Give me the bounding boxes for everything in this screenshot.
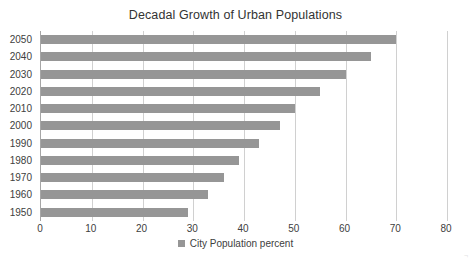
legend-swatch-icon (178, 240, 185, 247)
x-axis-label-60: 60 (339, 223, 350, 234)
corner-mark: ¬ (464, 252, 468, 259)
y-axis-category-labels: 2050204020302020201020001990198019701960… (0, 31, 36, 221)
y-axis-label-2000: 2000 (0, 117, 32, 134)
gridline (447, 31, 448, 221)
y-axis-label-1970: 1970 (0, 169, 32, 186)
bar-row (41, 169, 446, 186)
bar-2010[interactable] (41, 104, 295, 113)
bar-1980[interactable] (41, 156, 239, 165)
bar-2050[interactable] (41, 35, 396, 44)
bar-1960[interactable] (41, 190, 208, 199)
y-axis-label-2030: 2030 (0, 66, 32, 83)
x-axis-label-80: 80 (440, 223, 451, 234)
y-axis-label-1990: 1990 (0, 135, 32, 152)
chart-container: Decadal Growth of Urban Populations 2050… (0, 0, 471, 261)
y-axis-label-1960: 1960 (0, 186, 32, 203)
bar-1970[interactable] (41, 173, 224, 182)
y-axis-label-2050: 2050 (0, 31, 32, 48)
y-axis-label-2040: 2040 (0, 48, 32, 65)
bar-row (41, 83, 446, 100)
bar-row (41, 48, 446, 65)
bar-row (41, 66, 446, 83)
y-axis-label-1980: 1980 (0, 152, 32, 169)
bar-row (41, 186, 446, 203)
y-axis-label-2010: 2010 (0, 100, 32, 117)
y-axis-label-2020: 2020 (0, 83, 32, 100)
x-axis-label-20: 20 (136, 223, 147, 234)
bar-1990[interactable] (41, 139, 259, 148)
x-axis-label-10: 10 (85, 223, 96, 234)
bar-2030[interactable] (41, 70, 346, 79)
bar-row (41, 204, 446, 221)
legend-label: City Population percent (190, 238, 293, 249)
bar-2000[interactable] (41, 121, 280, 130)
x-axis-label-40: 40 (237, 223, 248, 234)
chart-title: Decadal Growth of Urban Populations (0, 8, 471, 22)
y-axis-label-1950: 1950 (0, 204, 32, 221)
bar-row (41, 31, 446, 48)
bar-1950[interactable] (41, 208, 188, 217)
x-axis-label-0: 0 (37, 223, 43, 234)
bar-2040[interactable] (41, 52, 371, 61)
bar-row (41, 152, 446, 169)
x-axis-value-labels: 01020304050607080 (0, 223, 471, 239)
chart-legend: City Population percent (0, 238, 471, 249)
bar-row (41, 100, 446, 117)
bar-row (41, 117, 446, 134)
bar-2020[interactable] (41, 87, 320, 96)
x-axis-label-70: 70 (390, 223, 401, 234)
x-axis-label-50: 50 (288, 223, 299, 234)
plot-area (40, 31, 446, 221)
x-axis-label-30: 30 (187, 223, 198, 234)
bar-row (41, 135, 446, 152)
